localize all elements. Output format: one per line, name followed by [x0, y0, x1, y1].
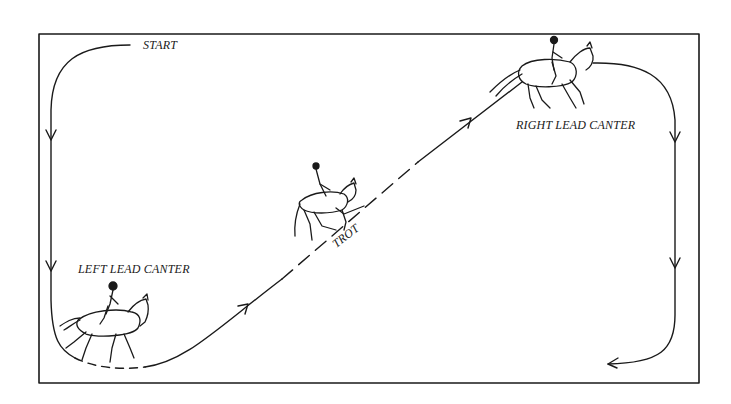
- label-start: START: [143, 38, 177, 53]
- right-path: [593, 63, 675, 364]
- arena-border: [39, 34, 699, 383]
- label-left-lead-canter: LEFT LEAD CANTER: [78, 262, 190, 277]
- start-path: [51, 45, 130, 358]
- trot-dashed-path: [282, 162, 418, 279]
- diagonal-solid-path-lower: [145, 279, 282, 367]
- riding-pattern-diagram: START LEFT LEAD CANTER TROT RIGHT LEAD C…: [0, 0, 731, 404]
- pattern-canvas: [0, 0, 731, 404]
- arrow-up-right-icon: [460, 118, 471, 128]
- horse-right-lead-canter-figure: [490, 37, 593, 109]
- label-right-lead-canter: RIGHT LEAD CANTER: [516, 118, 635, 133]
- horse-left-lead-canter-figure: [60, 282, 148, 362]
